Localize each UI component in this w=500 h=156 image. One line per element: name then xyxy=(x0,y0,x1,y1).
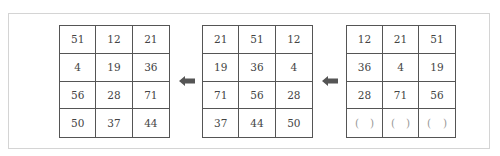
grid-cell: 71 xyxy=(383,82,419,110)
grid-middle: 21 51 12 19 36 4 71 56 28 37 44 50 xyxy=(202,25,313,138)
grid-cell: 21 xyxy=(133,26,169,54)
open-paren: ( xyxy=(391,117,395,129)
grid-cell: 28 xyxy=(347,82,383,110)
grid-cell: 37 xyxy=(203,109,239,137)
close-paren: ) xyxy=(406,117,410,129)
grid-cell: 4 xyxy=(60,54,96,82)
grid-cell: 44 xyxy=(239,109,275,137)
grid-cell: 51 xyxy=(239,26,275,54)
grid-cell: 19 xyxy=(96,54,132,82)
open-paren: ( xyxy=(355,117,359,129)
grid-cell: 56 xyxy=(60,82,96,110)
arrow-left-icon xyxy=(322,76,338,86)
grid-result: 51 12 21 4 19 36 56 28 71 50 37 44 xyxy=(59,25,170,138)
grid-cell: 51 xyxy=(419,26,455,54)
grid-cell: 36 xyxy=(133,54,169,82)
grid-cell: 19 xyxy=(419,54,455,82)
grid-cell: 44 xyxy=(133,109,169,137)
blank-answer-cell[interactable]: ( ) xyxy=(419,109,455,137)
blank-answer-cell[interactable]: ( ) xyxy=(383,109,419,137)
grid-cell: 36 xyxy=(239,54,275,82)
open-paren: ( xyxy=(427,117,431,129)
grid-cell: 56 xyxy=(239,82,275,110)
grid-cell: 4 xyxy=(276,54,312,82)
grid-cell: 51 xyxy=(60,26,96,54)
grid-cell: 37 xyxy=(96,109,132,137)
grid-cell: 12 xyxy=(276,26,312,54)
grid-cell: 19 xyxy=(203,54,239,82)
grid-cell: 28 xyxy=(96,82,132,110)
blank-answer-cell[interactable]: ( ) xyxy=(347,109,383,137)
grid-cell: 50 xyxy=(60,109,96,137)
grid-cell: 71 xyxy=(133,82,169,110)
grid-cell: 50 xyxy=(276,109,312,137)
close-paren: ) xyxy=(443,117,447,129)
grid-cell: 56 xyxy=(419,82,455,110)
grid-cell: 12 xyxy=(347,26,383,54)
arrow-left-icon xyxy=(179,76,195,86)
grid-cell: 36 xyxy=(347,54,383,82)
grid-cell: 21 xyxy=(383,26,419,54)
grid-cell: 71 xyxy=(203,82,239,110)
grid-cell: 4 xyxy=(383,54,419,82)
grid-cell: 21 xyxy=(203,26,239,54)
grid-start: 12 21 51 36 4 19 28 71 56 ( ) ( ) ( ) xyxy=(346,25,456,138)
grid-cell: 28 xyxy=(276,82,312,110)
grid-cell: 12 xyxy=(96,26,132,54)
close-paren: ) xyxy=(370,117,374,129)
